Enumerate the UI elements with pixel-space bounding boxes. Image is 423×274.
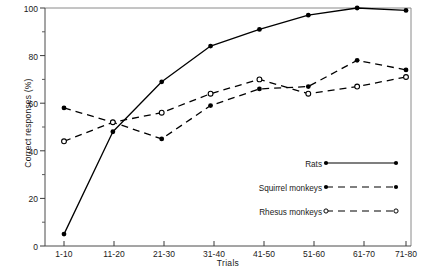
chart-figure: Correct responses (%) Trials 100 80 60 4… (0, 0, 423, 274)
legend-marker-rhesus-right (394, 209, 398, 213)
data-point-rats-71-80 (404, 8, 409, 13)
data-point-squirrel-monkeys-51-60 (306, 84, 311, 89)
data-point-rats-61-70 (355, 6, 360, 11)
data-point-rhesus-monkeys-11-20 (110, 120, 115, 125)
data-point-rhesus-monkeys-21-30 (159, 110, 164, 115)
chart-canvas (0, 0, 423, 274)
data-point-rhesus-monkeys-41-50 (257, 77, 262, 82)
data-point-rats-41-50 (257, 27, 262, 32)
data-point-rhesus-monkeys-61-70 (355, 84, 360, 89)
legend-marker-rhesus-left (324, 209, 328, 213)
series-squirrel-monkeys (62, 58, 409, 141)
legend-samples (324, 161, 398, 213)
data-point-rats-51-60 (306, 13, 311, 18)
data-point-squirrel-monkeys-21-30 (159, 137, 164, 142)
legend-marker-rats-right (394, 161, 398, 165)
data-point-squirrel-monkeys-1-10 (62, 106, 67, 111)
legend-marker-squirrel-right (394, 185, 398, 189)
data-point-squirrel-monkeys-31-40 (208, 103, 213, 108)
data-series-layer (62, 6, 409, 237)
data-point-squirrel-monkeys-61-70 (355, 58, 360, 63)
x-axis-ticks (64, 241, 406, 246)
data-point-squirrel-monkeys-71-80 (404, 67, 409, 72)
data-point-rats-11-20 (110, 129, 115, 134)
data-point-squirrel-monkeys-41-50 (257, 87, 262, 92)
data-point-rhesus-monkeys-1-10 (62, 139, 67, 144)
data-point-rhesus-monkeys-71-80 (404, 75, 409, 80)
legend-marker-rats-left (324, 161, 328, 165)
legend-marker-squirrel-left (324, 185, 328, 189)
data-point-rats-21-30 (159, 79, 164, 84)
data-point-rats-1-10 (62, 232, 67, 237)
data-point-rats-31-40 (208, 44, 213, 49)
series-line-squirrel-monkeys (64, 60, 406, 139)
data-point-rhesus-monkeys-51-60 (306, 91, 311, 96)
data-point-rhesus-monkeys-31-40 (208, 91, 213, 96)
